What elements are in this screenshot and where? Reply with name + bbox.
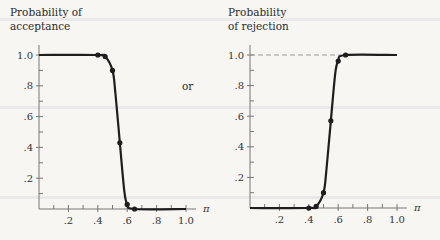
data-point <box>314 204 319 209</box>
data-point <box>95 52 100 57</box>
x-tick-label: .4 <box>304 214 314 225</box>
x-tick-label: .8 <box>363 214 373 225</box>
y-tick-label: .8 <box>234 80 244 91</box>
x-tick-label: .8 <box>152 215 162 226</box>
charts-canvas: Probability ofacceptanceπ.2.4.6.81.0.2.4… <box>0 0 440 240</box>
chart-2: Probabilityof rejectionπ.2.4.6.81.0.2.4.… <box>228 6 421 225</box>
data-point <box>117 140 122 145</box>
data-point <box>328 118 333 123</box>
y-tick-label: 1.0 <box>17 50 33 61</box>
x-tick-label: 1.0 <box>389 214 405 225</box>
x-axis-label: π <box>413 202 421 213</box>
x-tick-label: .6 <box>122 215 132 226</box>
x-tick-label: .6 <box>333 214 343 225</box>
oc-curve <box>250 55 397 209</box>
y-axis-label: Probability <box>228 6 286 18</box>
data-point <box>321 190 326 195</box>
y-tick-label: .4 <box>234 141 244 152</box>
y-tick-label: .6 <box>234 111 244 122</box>
y-axis-label: acceptance <box>10 20 70 32</box>
x-tick-label: .2 <box>275 214 285 225</box>
y-tick-label: .8 <box>23 80 33 91</box>
data-point <box>110 68 115 73</box>
y-tick-label: .2 <box>23 173 33 184</box>
data-point <box>336 59 341 64</box>
y-tick-label: .6 <box>23 111 33 122</box>
data-point <box>343 52 348 57</box>
y-axis-label: of rejection <box>228 20 289 32</box>
y-tick-label: .2 <box>234 172 244 183</box>
y-tick-label: .4 <box>23 142 33 153</box>
y-tick-label: 1.0 <box>228 50 244 61</box>
data-point <box>103 54 108 59</box>
y-axis-label: Probability of <box>10 6 83 18</box>
x-tick-label: .2 <box>64 215 74 226</box>
data-point <box>306 205 311 210</box>
x-axis-label: π <box>202 203 210 214</box>
x-tick-label: 1.0 <box>178 215 194 226</box>
chart-1: Probability ofacceptanceπ.2.4.6.81.0.2.4… <box>10 6 210 226</box>
oc-curve <box>39 55 186 209</box>
x-tick-label: .4 <box>93 215 103 226</box>
data-point <box>132 206 137 211</box>
data-point <box>125 202 130 207</box>
